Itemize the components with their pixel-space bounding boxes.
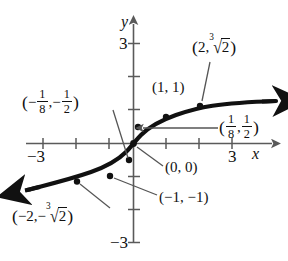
fraction-one-eighth: 18 bbox=[226, 113, 236, 141]
x-axis-label: x bbox=[252, 146, 259, 162]
fraction-one-half: 12 bbox=[242, 113, 252, 141]
label-close-paren: ) bbox=[253, 117, 259, 137]
label-point-eighth-half: (18,12) bbox=[219, 113, 259, 141]
label-point-origin: (0, 0) bbox=[165, 160, 198, 175]
label-comma: , bbox=[237, 119, 241, 135]
label-minus-1: − bbox=[28, 94, 36, 110]
label-point-1-1: (1, 1) bbox=[152, 80, 185, 95]
fraction-one-half: 12 bbox=[62, 88, 72, 116]
label-close-paren: ) bbox=[230, 37, 236, 57]
point-neg1 bbox=[107, 173, 113, 179]
label-close-paren: ) bbox=[73, 92, 79, 112]
point-origin bbox=[130, 140, 137, 147]
x-tick-label-3: 3 bbox=[228, 148, 237, 165]
label-point-neg1-neg1: (−1, −1) bbox=[159, 190, 208, 205]
point-2-cbrt2 bbox=[197, 103, 203, 109]
radicand: 2 bbox=[58, 207, 68, 224]
y-tick-label-3: 3 bbox=[119, 35, 128, 52]
leader-neg2 bbox=[80, 184, 110, 208]
y-axis bbox=[128, 24, 140, 243]
leader-2-cbrt2 bbox=[202, 62, 210, 101]
point-1-1 bbox=[163, 114, 169, 120]
label-x-value: 2, bbox=[198, 39, 209, 55]
label-x-value: −2, bbox=[18, 208, 38, 224]
point-eighth bbox=[135, 124, 141, 130]
leader-origin bbox=[137, 147, 163, 166]
point-neg2 bbox=[74, 178, 80, 184]
cube-root-graph-figure: y 3 −3 −3 3 x (2,3√2) (1, 1) (18,12) (−1… bbox=[0, 0, 288, 261]
label-close-paren: ) bbox=[67, 206, 73, 226]
label-point-neg-eighth-neg-half: (−18,−12) bbox=[22, 88, 79, 116]
cube-root-icon: 3√2 bbox=[46, 207, 67, 224]
point-neg-eighth bbox=[126, 157, 132, 163]
label-point-2-cbrt2: (2,3√2) bbox=[192, 38, 236, 57]
label-point-neg2-neg-cbrt2: (−2,−3√2) bbox=[12, 207, 73, 226]
label-open-paren: ( bbox=[219, 117, 225, 137]
label-minus-2: − bbox=[52, 94, 60, 110]
leader-lines bbox=[80, 62, 218, 208]
fraction-one-eighth: 18 bbox=[37, 88, 47, 116]
y-axis-label: y bbox=[121, 14, 128, 30]
x-tick-label-neg3: −3 bbox=[27, 148, 45, 165]
leader-neg-eighth bbox=[113, 110, 128, 158]
leader-neg1-neg1 bbox=[114, 178, 157, 195]
y-tick-label-neg3: −3 bbox=[110, 234, 128, 251]
label-minus: − bbox=[38, 208, 46, 224]
cube-root-icon: 3√2 bbox=[209, 38, 230, 55]
radicand: 2 bbox=[221, 38, 231, 55]
